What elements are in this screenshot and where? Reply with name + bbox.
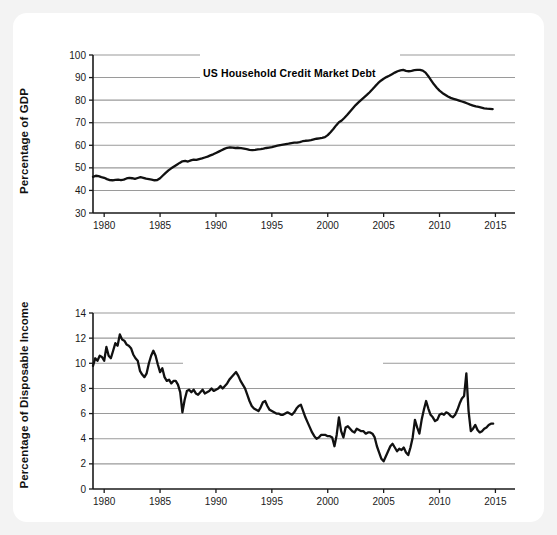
page-background: Percentage of GDP 3040506070809010019801… xyxy=(0,0,557,535)
svg-text:1995: 1995 xyxy=(261,496,284,507)
svg-text:2015: 2015 xyxy=(484,220,507,231)
svg-text:50: 50 xyxy=(75,162,87,173)
svg-text:2000: 2000 xyxy=(317,496,340,507)
svg-text:1980: 1980 xyxy=(93,220,116,231)
svg-text:1995: 1995 xyxy=(261,220,284,231)
y-axis-label-percentage-of-disposable-income: Percentage of Disposable Income xyxy=(13,269,35,521)
svg-text:1990: 1990 xyxy=(205,220,228,231)
svg-text:30: 30 xyxy=(75,208,87,219)
chart-title-household-debt: US Household Credit Market Debt xyxy=(203,67,376,79)
svg-text:70: 70 xyxy=(75,117,87,128)
svg-text:4: 4 xyxy=(80,433,86,444)
svg-text:1985: 1985 xyxy=(149,220,172,231)
svg-text:1985: 1985 xyxy=(149,496,172,507)
svg-text:40: 40 xyxy=(75,185,87,196)
svg-text:12: 12 xyxy=(75,333,87,344)
svg-text:2010: 2010 xyxy=(428,220,451,231)
chart-panel-household-debt: Percentage of GDP 3040506070809010019801… xyxy=(13,17,544,265)
svg-text:2: 2 xyxy=(80,458,86,469)
svg-text:80: 80 xyxy=(75,95,87,106)
household-debt-plot: 3040506070809010019801985199019952000200… xyxy=(35,17,544,265)
svg-text:14: 14 xyxy=(75,308,87,319)
svg-text:1980: 1980 xyxy=(93,496,116,507)
svg-text:0: 0 xyxy=(80,484,86,495)
svg-text:6: 6 xyxy=(80,408,86,419)
two-chart-figure: Percentage of GDP 3040506070809010019801… xyxy=(13,13,544,522)
svg-text:8: 8 xyxy=(80,383,86,394)
svg-text:10: 10 xyxy=(75,358,87,369)
svg-text:2005: 2005 xyxy=(373,496,396,507)
svg-text:2015: 2015 xyxy=(484,496,507,507)
chart-panel-saving-rate: Percentage of Disposable Income 02468101… xyxy=(13,269,544,519)
svg-text:2000: 2000 xyxy=(317,220,340,231)
svg-text:2005: 2005 xyxy=(373,220,396,231)
svg-text:100: 100 xyxy=(69,50,86,61)
svg-text:1990: 1990 xyxy=(205,496,228,507)
figure-card: Percentage of GDP 3040506070809010019801… xyxy=(13,13,544,522)
saving-rate-plot: 0246810121419801985199019952000200520102… xyxy=(35,269,544,519)
svg-text:90: 90 xyxy=(75,72,87,83)
svg-text:2010: 2010 xyxy=(428,496,451,507)
y-axis-label-percentage-of-gdp: Percentage of GDP xyxy=(13,17,35,265)
svg-text:60: 60 xyxy=(75,140,87,151)
